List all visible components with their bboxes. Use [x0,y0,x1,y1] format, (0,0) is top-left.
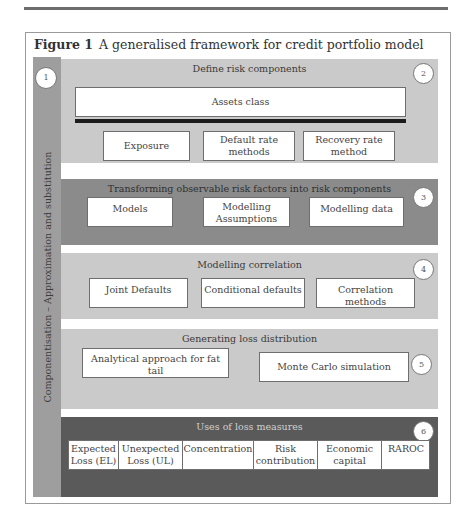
figure-title: Figure 1A generalised framework for cred… [34,37,424,52]
section-title: Generating loss distribution [61,333,438,344]
models-box: Models [87,197,173,227]
section-modelling-correlation: Modelling correlation 4 Joint Defaults C… [61,253,438,319]
step-number-3: 3 [413,187,434,208]
step-number-5: 5 [411,354,432,375]
divider-bar [75,119,406,123]
conditional-defaults-box: Conditional defaults [201,278,305,308]
modelling-data-box: Modelling data [309,197,404,227]
cell-unexpected-loss: Unexpected Loss (UL) [119,441,183,469]
side-label: Componentisation – Approximation and sub… [42,152,53,403]
monte-carlo-simulation-box: Monte Carlo simulation [259,352,409,382]
step-number-2: 2 [413,63,434,84]
correlation-methods-box: Correlation methods [316,278,415,308]
cell-raroc: RAROC [382,441,430,469]
section-title: Transforming observable risk factors int… [61,183,438,194]
section-define-risk-components: Define risk components 2 Assets class Ex… [61,59,438,163]
page-header-rule [24,7,448,10]
framework-diagram: Componentisation – Approximation and sub… [33,57,438,497]
recovery-rate-method-box: Recovery rate method [303,131,395,161]
modelling-assumptions-box: Modelling Assumptions [203,197,290,227]
default-rate-methods-box: Default rate methods [203,131,295,161]
exposure-box: Exposure [103,131,190,161]
cell-concentration: Concentration [183,441,254,469]
assets-class-box: Assets class [75,87,406,117]
figure-label: Figure 1 [34,37,93,52]
section-uses-of-loss-measures: Uses of loss measures 6 Expected Loss (E… [61,417,438,497]
step-number-6: 6 [413,421,434,442]
side-strip: Componentisation – Approximation and sub… [33,57,61,497]
joint-defaults-box: Joint Defaults [89,278,188,308]
figure-frame: Figure 1A generalised framework for cred… [25,32,451,504]
cell-expected-loss: Expected Loss (EL) [69,441,119,469]
loss-measures-row: Expected Loss (EL) Unexpected Loss (UL) … [68,440,430,470]
section-title: Modelling correlation [61,259,438,270]
section-transforming-risk-factors: Transforming observable risk factors int… [61,179,438,245]
cell-risk-contribution: Risk contribution [254,441,318,469]
cell-economic-capital: Economic capital [318,441,382,469]
section-title: Define risk components [61,63,438,74]
analytical-approach-box: Analytical approach for fat tail [82,348,229,378]
section-title: Uses of loss measures [61,421,438,432]
section-generating-loss-distribution: Generating loss distribution 5 Analytica… [61,329,438,409]
step-number-1: 1 [35,67,57,89]
step-number-4: 4 [413,259,434,280]
figure-caption: A generalised framework for credit portf… [99,37,424,52]
